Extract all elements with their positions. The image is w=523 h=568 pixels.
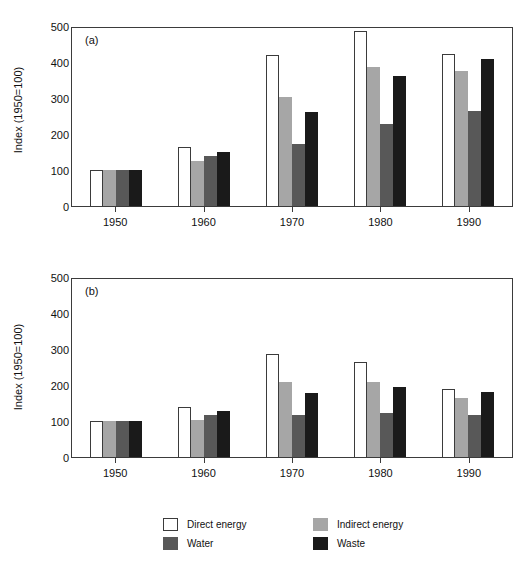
legend-item[interactable]: Indirect energy [313, 518, 453, 531]
bar [354, 362, 367, 457]
y-tick-label: 500 [0, 273, 69, 284]
bar-group [248, 26, 336, 206]
plot-area-a: (a) [71, 27, 513, 207]
y-tick-label: 400 [0, 58, 69, 69]
bar [481, 392, 494, 457]
bar [90, 170, 103, 206]
bar-group [160, 26, 248, 206]
legend-swatch-icon [313, 518, 328, 531]
y-tick-label: 100 [0, 166, 69, 177]
y-axis-label-a: Index (1950=100) [12, 15, 24, 205]
bar [103, 421, 116, 457]
x-tick-mark [292, 458, 293, 463]
x-tick: 1970 [248, 207, 336, 233]
bar [393, 76, 406, 206]
bar [204, 156, 217, 206]
bar [279, 382, 292, 457]
x-tick: 1960 [159, 458, 247, 484]
bar [90, 421, 103, 457]
bar [393, 387, 406, 457]
panel-a: Index (1950=100) 0100200300400500 (a) 19… [0, 0, 523, 258]
y-tick-label: 300 [0, 345, 69, 356]
x-tick: 1990 [425, 207, 513, 233]
x-tick-label: 1970 [248, 467, 336, 479]
figure: Index (1950=100) 0100200300400500 (a) 19… [0, 0, 523, 568]
bar [292, 415, 305, 457]
bar [468, 111, 481, 206]
bar [191, 161, 204, 206]
bar [380, 413, 393, 457]
x-tick-mark [204, 458, 205, 463]
bar [305, 393, 318, 457]
x-tick-mark [469, 207, 470, 212]
bar [178, 147, 191, 206]
x-tick-mark [292, 207, 293, 212]
x-tick-label: 1990 [425, 467, 513, 479]
legend-label: Indirect energy [337, 519, 403, 530]
x-tick-mark [204, 207, 205, 212]
bar-group [424, 277, 512, 457]
bar-group [160, 277, 248, 457]
bar [129, 421, 142, 457]
bar [468, 415, 481, 457]
panel-b: Index (1950=100) 0100200300400500 (b) 19… [0, 262, 523, 512]
bar [380, 124, 393, 206]
legend-item[interactable]: Waste [313, 537, 453, 550]
bar [367, 67, 380, 206]
bar [279, 97, 292, 206]
bar-groups-a [72, 26, 512, 206]
legend-label: Waste [337, 538, 365, 549]
x-tick-mark [115, 207, 116, 212]
x-tick-label: 1970 [248, 216, 336, 228]
bar [305, 112, 318, 206]
x-tick-label: 1980 [336, 467, 424, 479]
bar [266, 55, 279, 206]
legend: Direct energyIndirect energyWaterWaste [163, 518, 453, 550]
x-tick: 1960 [159, 207, 247, 233]
bar-group [424, 26, 512, 206]
x-tick-label: 1990 [425, 216, 513, 228]
bar [455, 398, 468, 457]
y-tick-label: 100 [0, 417, 69, 428]
bar [455, 71, 468, 206]
legend-item[interactable]: Water [163, 537, 313, 550]
bar [442, 54, 455, 206]
bar [354, 31, 367, 206]
x-tick-label: 1980 [336, 216, 424, 228]
legend-swatch-icon [313, 537, 328, 550]
bar [442, 389, 455, 457]
x-tick-mark [380, 207, 381, 212]
x-tick: 1980 [336, 207, 424, 233]
y-tick-label: 0 [0, 453, 69, 464]
y-tick-label: 400 [0, 309, 69, 320]
bar [266, 354, 279, 457]
x-tick: 1990 [425, 458, 513, 484]
bar [191, 420, 204, 457]
bar-group [72, 277, 160, 457]
bar-group [336, 26, 424, 206]
x-tick-mark [469, 458, 470, 463]
bar-group [248, 277, 336, 457]
y-axis-label-b: Index (1950=100) [12, 272, 24, 462]
x-tick: 1950 [71, 458, 159, 484]
x-tick-label: 1950 [71, 216, 159, 228]
bar [217, 411, 230, 457]
y-tick-label: 500 [0, 22, 69, 33]
bar [481, 59, 494, 206]
bar [292, 144, 305, 206]
y-tick-label: 0 [0, 202, 69, 213]
bar [116, 421, 129, 457]
bar-group [72, 26, 160, 206]
x-axis-a: 19501960197019801990 [71, 207, 513, 233]
plot-area-b: (b) [71, 278, 513, 458]
x-tick: 1950 [71, 207, 159, 233]
bar [116, 170, 129, 206]
x-tick-label: 1960 [159, 467, 247, 479]
bar [129, 170, 142, 206]
y-tick-label: 200 [0, 381, 69, 392]
legend-item[interactable]: Direct energy [163, 518, 313, 531]
legend-label: Water [187, 538, 213, 549]
legend-swatch-icon [163, 518, 178, 531]
legend-label: Direct energy [187, 519, 246, 530]
bar [178, 407, 191, 457]
